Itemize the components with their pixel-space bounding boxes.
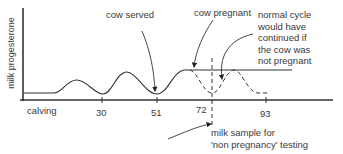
y-axis-label: milk progesterone [6, 13, 16, 93]
x-label-calving: calving [27, 105, 57, 116]
milk-sample-arrow [168, 124, 211, 139]
cow-pregnant-label: cow pregnant [194, 7, 251, 19]
x-label-72: 72 [196, 104, 207, 115]
cow-pregnant-arrow [194, 20, 213, 67]
x-label-30: 30 [96, 107, 107, 118]
x-label-93: 93 [260, 108, 271, 119]
progesterone-curve-hypothetical [190, 70, 270, 93]
cow-served-label: cow served [106, 9, 154, 21]
milk-sample-label: milk sample for 'non pregnancy' testing [211, 127, 308, 150]
normal-cycle-label: normal cycle would have continued if the… [258, 9, 311, 67]
cow-served-arrow [142, 31, 155, 91]
normal-cycle-arrow [221, 34, 253, 79]
x-label-51: 51 [151, 107, 162, 118]
